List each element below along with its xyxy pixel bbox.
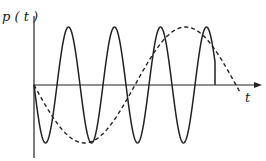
x-axis-arrow-icon	[254, 82, 262, 88]
waveform-diagram	[0, 0, 266, 161]
